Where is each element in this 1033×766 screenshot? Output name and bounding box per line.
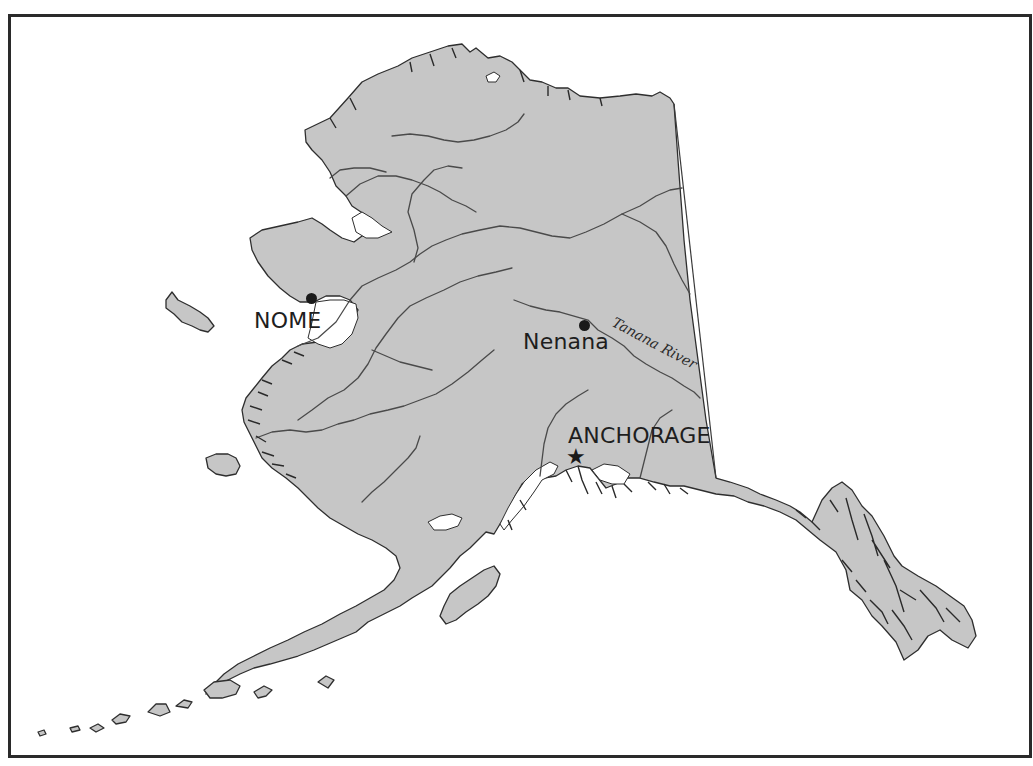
aleutian-island-2: [148, 704, 170, 716]
alaska-map: [0, 0, 1033, 766]
aleutian-island-1: [204, 680, 240, 698]
shumagin-islands: [318, 676, 334, 688]
aleutian-island-6: [38, 730, 46, 736]
nome-label: NOME: [254, 310, 321, 332]
st-lawrence-island: [166, 292, 214, 332]
nome-marker-dot: [306, 293, 317, 304]
nenana-label: Nenana: [523, 331, 609, 353]
mainland-landmass: [206, 44, 976, 694]
anchorage-star-icon: ★: [566, 446, 586, 468]
kodiak-island: [440, 566, 500, 624]
anchorage-label: ANCHORAGE: [568, 425, 711, 447]
aleutian-island-3: [112, 714, 130, 724]
aleutian-island-5: [70, 726, 80, 732]
aleutian-island-7: [254, 686, 272, 698]
nunivak-island: [206, 454, 240, 476]
aleutian-island-4: [176, 700, 192, 708]
aleutian-island-8: [90, 724, 104, 732]
